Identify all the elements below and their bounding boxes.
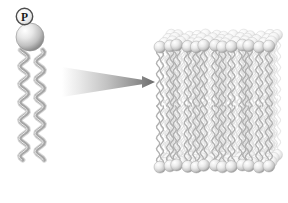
phosphate-label: P	[21, 11, 28, 23]
fatty-acid-tails	[19, 50, 44, 160]
glycerol-head-sphere	[16, 23, 44, 51]
phospholipid-bilayer-figure: P	[0, 0, 288, 203]
phospholipid-molecule: P	[0, 0, 288, 203]
